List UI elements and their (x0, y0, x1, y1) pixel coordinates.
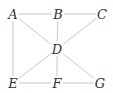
edge-a-d (13, 14, 57, 49)
node-label: C (97, 7, 107, 22)
node-d: D (51, 42, 63, 57)
graph-diagram: ABCDEFG (0, 0, 113, 93)
node-label: F (51, 76, 62, 91)
node-label: A (7, 7, 17, 22)
node-c: C (96, 7, 108, 22)
node-label: G (95, 76, 105, 91)
node-a: A (7, 7, 19, 22)
node-label: B (52, 7, 63, 22)
node-g: G (94, 76, 106, 91)
node-b: B (52, 7, 64, 22)
node-label: D (51, 42, 63, 57)
edge-d-e (13, 49, 57, 83)
node-label: E (7, 76, 18, 91)
node-f: F (51, 76, 63, 91)
edge-d-g (57, 49, 100, 83)
node-e: E (7, 76, 19, 91)
